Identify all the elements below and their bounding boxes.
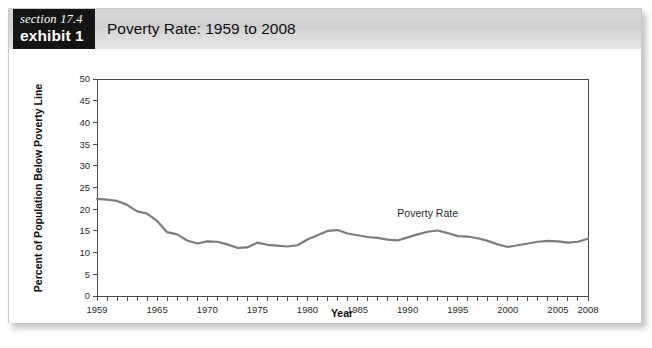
y-tick-label: 5 (85, 269, 90, 280)
series-line-poverty-rate (97, 199, 588, 248)
y-tick-label: 10 (79, 247, 90, 258)
exhibit-card: section 17.4 exhibit 1 Poverty Rate: 195… (8, 8, 642, 323)
poverty-rate-line-chart: 05101520253035404550 1959196519701975198… (9, 49, 643, 323)
section-badge: section 17.4 exhibit 1 (13, 9, 95, 49)
x-tick-label: 1959 (86, 304, 107, 315)
section-badge-exhibit-label: exhibit 1 (20, 27, 95, 45)
y-tick-label: 30 (79, 160, 90, 171)
x-tick-label: 1995 (447, 304, 468, 315)
y-tick-label: 50 (79, 73, 90, 84)
y-axis: 05101520253035404550 (79, 73, 97, 301)
section-badge-section-label: section 17.4 (20, 12, 95, 27)
annotation-group: Poverty Rate (397, 207, 458, 219)
y-tick-label: 45 (79, 95, 90, 106)
y-tick-label: 40 (79, 117, 90, 128)
x-tick-label: 2005 (547, 304, 568, 315)
x-tick-label: 2000 (497, 304, 518, 315)
x-tick-label: 1970 (197, 304, 218, 315)
x-tick-label: 1975 (247, 304, 268, 315)
series-group (97, 199, 588, 248)
exhibit-header: section 17.4 exhibit 1 Poverty Rate: 195… (9, 9, 641, 49)
y-tick-label: 15 (79, 225, 90, 236)
x-tick-label: 2008 (577, 304, 598, 315)
exhibit-title: Poverty Rate: 1959 to 2008 (107, 9, 296, 49)
x-tick-label: 1980 (297, 304, 318, 315)
series-annotation-label: Poverty Rate (397, 207, 458, 219)
x-axis-title: Year (331, 307, 353, 319)
chart-region: 05101520253035404550 1959196519701975198… (9, 49, 641, 323)
plot-frame (97, 79, 588, 296)
y-tick-label: 35 (79, 139, 90, 150)
x-tick-label: 1990 (397, 304, 418, 315)
y-tick-label: 0 (85, 290, 90, 301)
x-tick-label: 1965 (147, 304, 168, 315)
y-axis-title: Percent of Population Below Poverty Line (32, 84, 44, 292)
y-tick-label: 20 (79, 204, 90, 215)
y-tick-label: 25 (79, 182, 90, 193)
